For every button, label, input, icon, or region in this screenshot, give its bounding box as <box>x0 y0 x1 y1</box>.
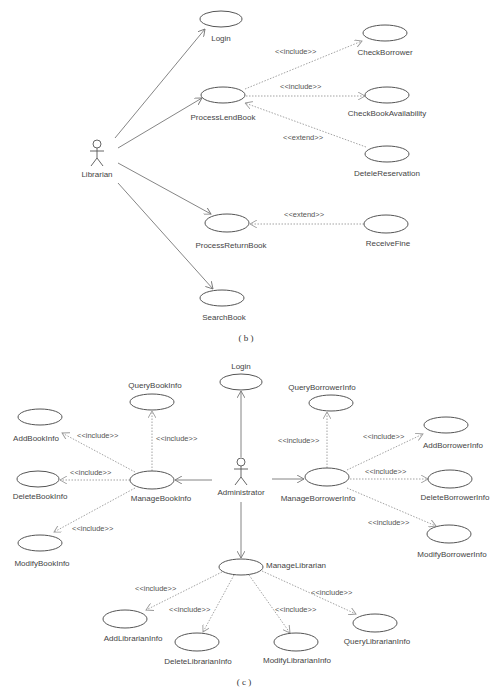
svg-text:ProcessReturnBook: ProcessReturnBook <box>195 241 267 250</box>
usecase-admin-login[interactable]: Login <box>220 362 262 390</box>
stereotype-include: <<include>> <box>135 584 177 593</box>
svg-text:ModifyLibrarianInfo: ModifyLibrarianInfo <box>263 656 332 665</box>
stereotype-include: <<include>> <box>77 431 119 440</box>
diagram-b: <<include>> <<include>> <<extend>> <<ext… <box>81 11 426 343</box>
usecase-query-borrower-info[interactable]: QueryBorrowerInfo <box>288 383 356 411</box>
usecase-manage-book-info[interactable]: ManageBookInfo <box>130 471 192 503</box>
usecase-manage-borrower-info[interactable]: ManageBorrowerInfo <box>281 468 356 503</box>
usecase-modify-book-info[interactable]: ModifyBookInfo <box>14 535 70 568</box>
usecase-modify-borrower-info[interactable]: ModifyBorrowerInfo <box>417 525 487 559</box>
svg-text:DeleteBorrowerInfo: DeleteBorrowerInfo <box>421 493 490 502</box>
svg-text:ModifyBookInfo: ModifyBookInfo <box>14 559 70 568</box>
usecase-manage-librarian[interactable]: ManageLibrarian <box>219 559 326 575</box>
svg-text:QueryLibrarianInfo: QueryLibrarianInfo <box>344 637 411 646</box>
include-managelibrarian-deletelibrarian <box>203 575 234 632</box>
usecase-add-librarian-info[interactable]: AddLibrarianInfo <box>103 610 163 643</box>
diagram-c: <<include>> <<include>> <<include>> <<in… <box>13 362 490 687</box>
usecase-check-book-availability[interactable]: CheckBookAvailability <box>348 87 427 118</box>
svg-text:ReceiveFine: ReceiveFine <box>366 239 411 248</box>
use-case-diagrams: <<include>> <<include>> <<extend>> <<ext… <box>0 0 498 693</box>
svg-text:ManageBorrowerInfo: ManageBorrowerInfo <box>281 494 356 503</box>
svg-text:Login: Login <box>231 362 251 371</box>
stereotype-include: <<include>> <box>363 432 405 441</box>
svg-text:AddLibrarianInfo: AddLibrarianInfo <box>104 634 163 643</box>
usecase-add-borrower-info[interactable]: AddBorrowerInfo <box>423 417 484 450</box>
svg-text:ManageLibrarian: ManageLibrarian <box>266 561 326 570</box>
stereotype-include: <<include>> <box>275 605 317 614</box>
usecase-login[interactable]: Login <box>200 11 242 43</box>
actor-administrator-icon[interactable] <box>234 458 248 485</box>
assoc-librarian-return <box>118 163 211 214</box>
actor-administrator-label: Administrator <box>217 488 264 497</box>
usecase-process-lend-book[interactable]: ProcessLendBook <box>191 87 257 122</box>
actor-librarian-label: Librarian <box>81 170 112 179</box>
stereotype-include: <<include>> <box>365 467 407 476</box>
usecase-process-return-book[interactable]: ProcessReturnBook <box>195 214 267 250</box>
svg-text:DeleteBookInfo: DeleteBookInfo <box>13 492 68 501</box>
svg-text:QueryBorrowerInfo: QueryBorrowerInfo <box>288 383 356 392</box>
usecase-check-borrower[interactable]: CheckBorrower <box>357 25 412 57</box>
usecase-delete-book-info[interactable]: DeleteBookInfo <box>13 471 68 501</box>
stereotype-extend: <<extend>> <box>284 210 325 219</box>
assoc-librarian-search <box>118 183 213 289</box>
usecase-detele-reservation[interactable]: DeteleReservation <box>354 146 420 178</box>
usecase-query-librarian-info[interactable]: QueryLibrarianInfo <box>344 614 411 646</box>
usecase-search-book[interactable]: SearchBook <box>200 290 247 322</box>
stereotype-include: <<include>> <box>280 82 322 91</box>
svg-text:AddBookInfo: AddBookInfo <box>13 434 59 443</box>
stereotype-include: <<include>> <box>70 468 112 477</box>
usecase-add-book-info[interactable]: AddBookInfo <box>13 409 62 443</box>
caption-b: ( b ) <box>239 333 254 343</box>
svg-text:ProcessLendBook: ProcessLendBook <box>191 113 257 122</box>
include-managelibrarian-modifylibrarian <box>249 575 290 633</box>
usecase-modify-librarian-info[interactable]: ModifyLibrarianInfo <box>263 633 332 665</box>
svg-text:DeleteLibrarianInfo: DeleteLibrarianInfo <box>164 657 232 666</box>
svg-text:ManageBookInfo: ManageBookInfo <box>131 494 192 503</box>
svg-text:CheckBorrower: CheckBorrower <box>357 48 412 57</box>
svg-text:AddBorrowerInfo: AddBorrowerInfo <box>423 441 484 450</box>
svg-text:DeteleReservation: DeteleReservation <box>354 169 420 178</box>
stereotype-include: <<include>> <box>156 434 198 443</box>
svg-text:SearchBook: SearchBook <box>202 313 247 322</box>
stereotype-include: <<include>> <box>311 588 353 597</box>
svg-text:ModifyBorrowerInfo: ModifyBorrowerInfo <box>417 550 487 559</box>
usecase-query-book-info[interactable]: QueryBookInfo <box>128 381 182 410</box>
stereotype-include: <<include>> <box>275 47 317 56</box>
usecase-delete-librarian-info[interactable]: DeleteLibrarianInfo <box>164 633 232 666</box>
svg-text:QueryBookInfo: QueryBookInfo <box>128 381 182 390</box>
usecase-delete-borrower-info[interactable]: DeleteBorrowerInfo <box>421 470 490 502</box>
usecase-receive-fine[interactable]: ReceiveFine <box>364 215 411 248</box>
stereotype-include: <<include>> <box>368 518 410 527</box>
stereotype-include: <<include>> <box>72 524 114 533</box>
stereotype-include: <<include>> <box>278 436 320 445</box>
stereotype-extend: <<extend>> <box>283 133 324 142</box>
assoc-librarian-lend <box>118 98 202 148</box>
caption-c: ( c ) <box>237 677 252 687</box>
stereotype-include: <<include>> <box>169 605 211 614</box>
svg-text:Login: Login <box>211 34 231 43</box>
actor-librarian-icon[interactable] <box>90 140 104 166</box>
svg-text:CheckBookAvailability: CheckBookAvailability <box>348 109 427 118</box>
